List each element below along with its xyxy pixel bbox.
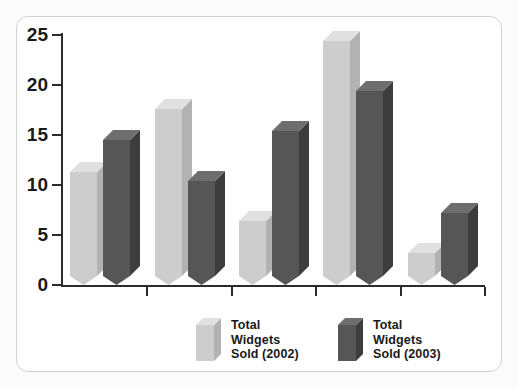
legend-label-2: Total Widgets Sold (2003) [373,318,441,362]
light-bar-swatch [196,318,222,362]
legend-label-1: Total Widgets Sold (2002) [231,318,299,362]
legend-item-1[interactable]: Total Widgets Sold (2002) [196,318,299,362]
legend-item-2[interactable]: Total Widgets Sold (2003) [338,318,441,362]
dark-bar-swatch [338,318,364,362]
chart-screenshot: 0510152025 Total Widgets Sold (2002)Tota… [0,0,518,388]
chart-legend: Total Widgets Sold (2002)Total Widgets S… [0,0,518,388]
